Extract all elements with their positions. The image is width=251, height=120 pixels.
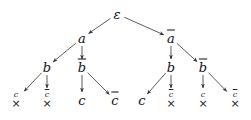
cross-icon: × [11, 98, 20, 109]
node-root: ε [114, 8, 121, 21]
tree-edges [0, 0, 251, 120]
node-abar: a [167, 32, 175, 45]
edge-arrow [88, 73, 110, 95]
node-a: a [78, 32, 86, 45]
node-a_bbar_c: c [78, 94, 85, 107]
node-a_bbar_cbar: c [111, 94, 118, 107]
edge-arrow [53, 43, 76, 62]
node-a_b: b [43, 61, 51, 74]
node-abar_b_c: c [138, 94, 145, 107]
node-a_bbar: b [78, 61, 86, 74]
cross-icon: × [166, 98, 175, 109]
edge-arrow [124, 17, 163, 35]
edge-arrow [24, 73, 41, 91]
cross-icon: × [42, 98, 51, 109]
node-abar_b: b [167, 61, 175, 74]
cross-icon: × [198, 98, 207, 109]
edge-arrow [89, 19, 111, 34]
edge-arrow [147, 73, 165, 94]
node-abar_bbar: b [199, 61, 207, 74]
edge-arrow [177, 43, 197, 61]
cross-icon: × [230, 98, 239, 109]
edge-arrow [209, 73, 227, 92]
